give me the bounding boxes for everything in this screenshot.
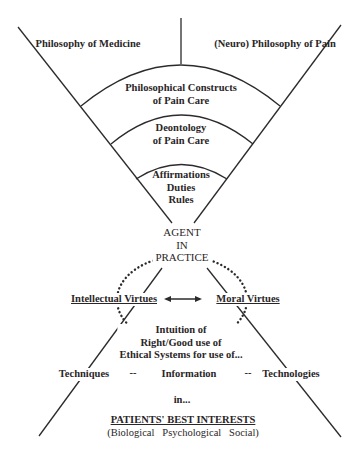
agent-line3: PRACTICE xyxy=(152,251,211,264)
label-affirmations-duties-rules: Affirmations Duties Rules xyxy=(152,169,210,207)
band3-line3: Rules xyxy=(152,194,210,207)
band2-line2: of Pain Care xyxy=(153,135,209,148)
band3-line1: Affirmations xyxy=(152,169,210,182)
label-information: Information xyxy=(162,368,217,381)
label-philosophy-of-medicine: Philosophy of Medicine xyxy=(35,38,140,51)
label-deontology: Deontology of Pain Care xyxy=(153,122,209,147)
label-in: in... xyxy=(174,394,191,407)
separator-2: -- xyxy=(245,367,252,380)
label-philosophical-constructs: Philosophical Constructs of Pain Care xyxy=(125,82,237,107)
intuition-line2: Right/Good use of xyxy=(119,337,242,350)
band1-line1: Philosophical Constructs xyxy=(125,82,237,95)
label-intuition: Intuition of Right/Good use of Ethical S… xyxy=(117,324,244,362)
band1-line2: of Pain Care xyxy=(125,95,237,108)
band3-line2: Duties xyxy=(152,182,210,195)
label-bio-psycho-social: (Biological Psychological Social) xyxy=(107,427,259,440)
left-cone-line xyxy=(18,27,172,223)
band2-line1: Deontology xyxy=(153,122,209,135)
intuition-line3: Ethical Systems for use of... xyxy=(119,349,242,362)
agent-line1: AGENT xyxy=(152,226,211,239)
label-patients-best-interests: PATIENTS' BEST INTERESTS xyxy=(111,414,256,427)
label-moral-virtues: Moral Virtues xyxy=(214,293,281,306)
label-technologies: Technologies xyxy=(260,368,321,381)
agent-line2: IN xyxy=(152,239,211,252)
separator-1: -- xyxy=(130,367,137,380)
intuition-line1: Intuition of xyxy=(119,324,242,337)
right-cone-line xyxy=(194,25,341,223)
label-neuro-philosophy-of-pain: (Neuro) Philosophy of Pain xyxy=(214,38,335,51)
label-agent-in-practice: AGENT IN PRACTICE xyxy=(152,226,211,264)
label-intellectual-virtues: Intellectual Virtues xyxy=(69,293,159,306)
label-techniques: Techniques xyxy=(57,368,111,381)
